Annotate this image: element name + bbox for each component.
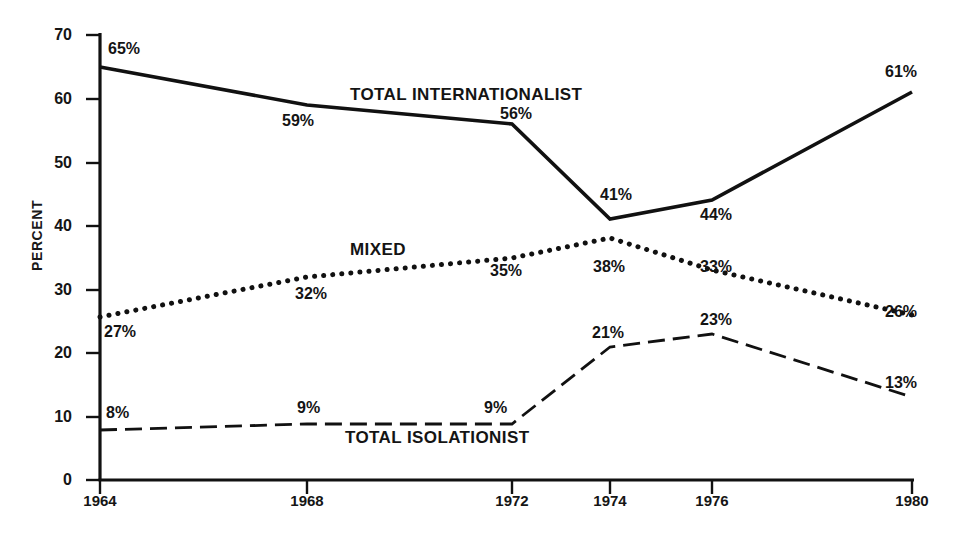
plot-area bbox=[0, 0, 965, 543]
value-label-mixed-1976: 33% bbox=[700, 258, 732, 276]
value-label-intl-1980: 61% bbox=[885, 63, 917, 81]
value-label-isol-1972: 9% bbox=[484, 399, 507, 417]
value-label-isol-1974: 21% bbox=[592, 324, 624, 342]
series-label-mixed: MIXED bbox=[350, 240, 406, 260]
y-tick-marks bbox=[86, 35, 100, 480]
value-label-isol-1980: 13% bbox=[885, 374, 917, 392]
line-chart: PERCENT 70 60 50 40 30 20 10 0 1964 1968… bbox=[0, 0, 965, 543]
series-label-isolationist: TOTAL ISOLATIONIST bbox=[345, 428, 529, 448]
value-label-intl-1976: 44% bbox=[700, 206, 732, 224]
value-label-intl-1972: 56% bbox=[500, 105, 532, 123]
value-label-intl-1968: 59% bbox=[282, 112, 314, 130]
value-label-isol-1976: 23% bbox=[700, 311, 732, 329]
series-label-internationalist: TOTAL INTERNATIONALIST bbox=[350, 85, 582, 105]
value-label-mixed-1968: 32% bbox=[295, 285, 327, 303]
value-label-mixed-1964: 27% bbox=[104, 323, 136, 341]
value-label-isol-1968: 9% bbox=[297, 399, 320, 417]
value-label-isol-1964: 8% bbox=[106, 404, 129, 422]
value-label-mixed-1972: 35% bbox=[490, 262, 522, 280]
value-label-intl-1974: 41% bbox=[600, 186, 632, 204]
value-label-mixed-1974: 38% bbox=[593, 258, 625, 276]
x-tick-marks bbox=[100, 480, 912, 494]
value-label-intl-1964: 65% bbox=[108, 40, 140, 58]
value-label-mixed-1980: 26% bbox=[885, 303, 917, 321]
